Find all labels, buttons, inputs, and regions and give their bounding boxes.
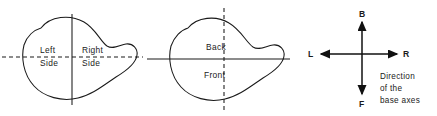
- caption-line-2: of the: [380, 84, 402, 93]
- label-left-side-line2: Side: [40, 58, 58, 68]
- caption-line-1: Direction: [380, 72, 415, 81]
- panel-base-axes-key: B F L R Direction of the base axes: [308, 9, 420, 109]
- caption-line-3: base axes: [380, 96, 420, 105]
- axis-label-f: F: [359, 99, 364, 109]
- axis-label-b: B: [359, 9, 365, 19]
- anatomical-orientation-diagram: Left Side Right Side Back Front: [0, 0, 437, 116]
- panel-left-right: Left Side Right Side: [2, 14, 143, 105]
- label-right-side-line2: Side: [82, 58, 100, 68]
- label-back: Back: [206, 42, 226, 52]
- axis-label-r: R: [403, 49, 410, 59]
- label-left-side-line1: Left: [40, 45, 56, 55]
- label-front: Front: [204, 70, 226, 80]
- panel-back-front: Back Front: [147, 8, 290, 112]
- axis-label-l: L: [308, 49, 313, 59]
- label-right-side-line1: Right: [82, 45, 104, 55]
